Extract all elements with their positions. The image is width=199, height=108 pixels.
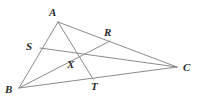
geometry-figure: A R C S X T B <box>0 0 199 108</box>
point-label-c: C <box>183 62 190 73</box>
point-label-a: A <box>49 7 56 18</box>
segment-group <box>19 22 177 88</box>
geometry-canvas <box>0 0 199 108</box>
point-label-x: X <box>67 59 74 70</box>
point-label-s: S <box>26 41 32 52</box>
side-bc <box>19 67 177 88</box>
point-label-t: T <box>91 81 98 92</box>
cevian-at <box>58 22 93 79</box>
point-label-r: R <box>104 27 111 38</box>
side-ac <box>58 22 177 67</box>
point-label-b: B <box>5 84 12 95</box>
cevian-sc <box>40 48 177 67</box>
